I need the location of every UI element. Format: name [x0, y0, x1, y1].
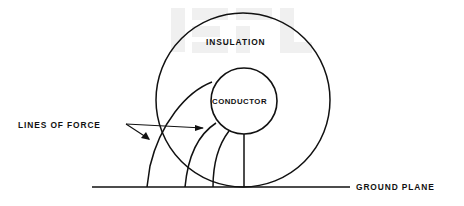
lines-of-force-label: LINES OF FORCE: [18, 120, 101, 130]
cable-field-diagram: INSULATION CONDUCTOR LINES OF FORCE GROU…: [0, 0, 464, 206]
ground-plane-label: GROUND PLANE: [356, 182, 435, 192]
arrowhead-lower-icon: [141, 132, 150, 140]
arrowhead-right-icon: [195, 125, 204, 131]
conductor-label: CONDUCTOR: [212, 97, 267, 106]
figure-canvas: INSULATION CONDUCTOR LINES OF FORCE GROU…: [0, 0, 464, 206]
field-line-3: [213, 131, 229, 187]
field-line-2: [185, 123, 216, 187]
insulation-label: INSULATION: [206, 37, 266, 47]
